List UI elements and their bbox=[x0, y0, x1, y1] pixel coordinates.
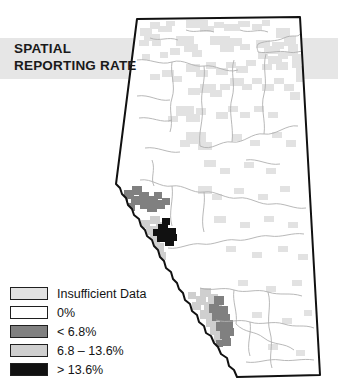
legend-item-high: > 13.6% bbox=[10, 360, 146, 379]
legend-item-zero: 0% bbox=[10, 303, 146, 322]
legend-label-zero: 0% bbox=[57, 306, 75, 320]
legend-item-low: < 6.8% bbox=[10, 322, 146, 341]
legend-swatch-mid bbox=[10, 344, 48, 357]
legend-label-insufficient-data: Insufficient Data bbox=[57, 287, 146, 301]
legend-item-mid: 6.8 – 13.6% bbox=[10, 341, 146, 360]
title-line-1: SPATIAL bbox=[14, 40, 137, 57]
title-line-2: REPORTING RATE bbox=[14, 57, 137, 74]
legend-item-insufficient-data: Insufficient Data bbox=[10, 284, 146, 303]
legend-swatch-zero bbox=[10, 306, 48, 319]
figure-root: SPATIAL REPORTING RATE bbox=[0, 0, 338, 392]
legend-swatch-insufficient-data bbox=[10, 287, 48, 300]
legend: Insufficient Data 0% < 6.8% 6.8 – 13.6% … bbox=[10, 284, 146, 379]
page-title: SPATIAL REPORTING RATE bbox=[14, 40, 137, 74]
legend-swatch-low bbox=[10, 325, 48, 338]
legend-label-mid: 6.8 – 13.6% bbox=[57, 344, 124, 358]
legend-swatch-high bbox=[10, 363, 48, 376]
legend-label-high: > 13.6% bbox=[57, 363, 103, 377]
legend-label-low: < 6.8% bbox=[57, 325, 96, 339]
